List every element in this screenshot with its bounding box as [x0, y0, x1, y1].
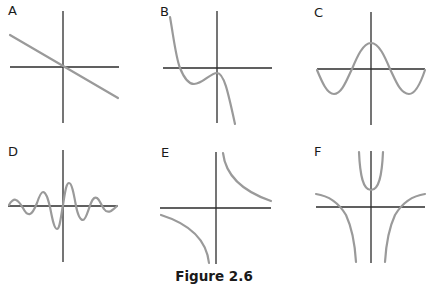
panel-f-graph — [316, 151, 425, 263]
panel-f-label: F — [314, 144, 321, 159]
panel-a-graph — [10, 11, 119, 123]
panel-b-graph — [163, 11, 272, 124]
figure-graphs — [0, 0, 428, 285]
panel-b-cubic-curve — [170, 17, 235, 124]
panel-c-graph — [317, 12, 425, 125]
panel-c-label: C — [314, 5, 323, 20]
panel-e-label: E — [161, 145, 169, 160]
panel-f-right-branch — [385, 194, 425, 262]
panel-a-label: A — [8, 3, 17, 18]
panel-d-graph — [8, 150, 118, 262]
panel-e-graph — [160, 152, 271, 264]
panel-d-label: D — [8, 144, 18, 159]
panel-e-hyperbola-right-branch — [223, 153, 271, 201]
figure-caption: Figure 2.6 — [0, 268, 428, 284]
panel-b-label: B — [160, 4, 169, 19]
panel-e-hyperbola-left-branch — [161, 215, 209, 263]
panel-f-left-branch — [316, 194, 356, 262]
